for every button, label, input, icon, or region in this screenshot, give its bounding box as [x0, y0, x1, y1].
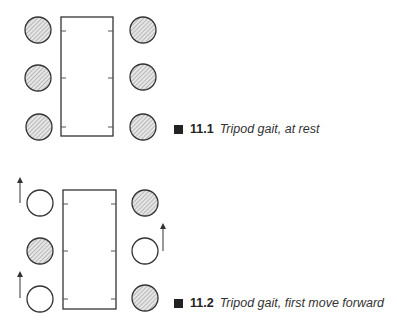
figure-number: 11.2	[190, 296, 214, 310]
body-rectangle	[63, 190, 116, 309]
figure-caption-text: Tripod gait, at rest	[220, 122, 320, 136]
leg-left-rear-planted	[26, 114, 52, 140]
leg-right-rear-planted	[132, 285, 158, 311]
body-rectangle	[61, 17, 113, 136]
leg-left-rear-lifted	[27, 286, 53, 312]
figure-caption-11-2: 11.2 Tripod gait, first move forward	[174, 296, 384, 310]
square-bullet-icon	[174, 299, 183, 308]
figure-caption-text: Tripod gait, first move forward	[220, 296, 384, 310]
square-bullet-icon	[174, 125, 183, 134]
leg-right-front-planted	[132, 190, 158, 216]
leg-left-middle-planted	[27, 238, 53, 264]
leg-left-front-lifted	[27, 190, 53, 216]
figure-number: 11.1	[190, 122, 214, 136]
figure-11-2-diagram	[20, 180, 163, 312]
gait-diagrams	[0, 0, 397, 336]
leg-left-middle-planted	[25, 65, 51, 91]
figure-caption-11-1: 11.1 Tripod gait, at rest	[174, 122, 319, 136]
leg-right-front-planted	[130, 17, 156, 43]
figure-11-1-diagram	[25, 17, 156, 140]
leg-right-middle-planted	[130, 64, 156, 90]
leg-right-rear-planted	[130, 114, 156, 140]
leg-left-front-planted	[25, 17, 51, 43]
leg-right-middle-lifted	[132, 238, 158, 264]
